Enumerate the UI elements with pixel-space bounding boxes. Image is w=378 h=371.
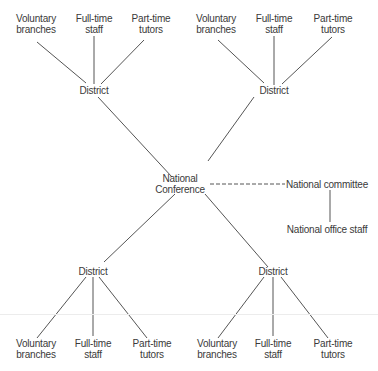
label-line: staff [256, 24, 293, 35]
label-line: staff [255, 349, 292, 360]
label-line: Voluntary [196, 13, 236, 24]
label-line: Conference [155, 184, 205, 195]
bottom-right-part-time-tutors: Part-time tutors [314, 338, 353, 360]
label-line: Full-time [256, 13, 293, 24]
label-line: Voluntary [197, 338, 237, 349]
label-line: Part-time [132, 13, 171, 24]
label-line: Full-time [75, 338, 112, 349]
label-line: tutors [314, 24, 353, 35]
label-line: tutors [132, 24, 171, 35]
top-left-voluntary-branches: Voluntary branches [16, 13, 56, 35]
top-right-part-time-tutors: Part-time tutors [314, 13, 353, 35]
label-line: Full-time [76, 13, 113, 24]
label-line: branches [16, 24, 56, 35]
label-line: Voluntary [16, 338, 56, 349]
label-line: branches [197, 349, 237, 360]
label-line: Part-time [314, 338, 353, 349]
label-line: tutors [133, 349, 172, 360]
bottom-left-district: District [79, 266, 108, 277]
label-line: tutors [314, 349, 353, 360]
top-right-full-time-staff: Full-time staff [256, 13, 293, 35]
bottom-left-part-time-tutors: Part-time tutors [133, 338, 172, 360]
top-left-full-time-staff: Full-time staff [76, 13, 113, 35]
bottom-right-district: District [259, 266, 288, 277]
label-line: Full-time [255, 338, 292, 349]
divider-line [0, 314, 378, 315]
national-office-staff: National office staff [287, 224, 367, 235]
label-line: staff [75, 349, 112, 360]
bottom-left-full-time-staff: Full-time staff [75, 338, 112, 360]
bottom-right-voluntary-branches: Voluntary branches [197, 338, 237, 360]
national-conference: National Conference [155, 173, 205, 195]
bottom-right-full-time-staff: Full-time staff [255, 338, 292, 360]
label-line: Part-time [314, 13, 353, 24]
bottom-left-voluntary-branches: Voluntary branches [16, 338, 56, 360]
label-line: National [155, 173, 205, 184]
label-line: Part-time [133, 338, 172, 349]
top-right-voluntary-branches: Voluntary branches [196, 13, 236, 35]
top-left-part-time-tutors: Part-time tutors [132, 13, 171, 35]
label-line: Voluntary [16, 13, 56, 24]
top-right-district: District [260, 85, 289, 96]
label-line: branches [16, 349, 56, 360]
top-left-district: District [80, 85, 109, 96]
label-line: branches [196, 24, 236, 35]
label-line: staff [76, 24, 113, 35]
national-committee: National committee [286, 179, 368, 190]
